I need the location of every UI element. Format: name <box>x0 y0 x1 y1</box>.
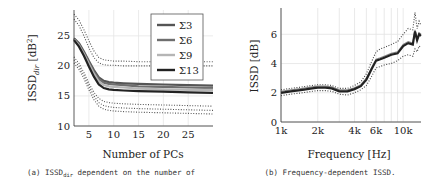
x-tick-label: 20 <box>157 129 170 140</box>
legend-label: Σ13 <box>179 65 199 76</box>
x-tick-label: 25 <box>182 129 195 140</box>
chart-b: 1k2k4k6k10k0246 Frequency [Hz] ISSD [dB]… <box>248 8 421 177</box>
legend-label: Σ6 <box>179 35 192 46</box>
chart-b-x-axis-label: Frequency [Hz] <box>307 148 390 160</box>
y-tick-label: 0 <box>271 117 277 128</box>
chart-a-y-axis-label: ISSDdir [dB2] <box>26 34 41 101</box>
chart-a-legend: Σ3Σ6Σ9Σ13 <box>151 14 203 80</box>
x-tick-label: 10k <box>394 125 414 136</box>
chart-b-caption: (b) Frequency-dependent ISSD. <box>265 168 396 177</box>
y-tick-label: 15 <box>57 90 70 101</box>
x-tick-label: 15 <box>132 129 145 140</box>
y-tick-label: 2 <box>271 87 277 98</box>
chart-a-x-axis-label: Number of PCs <box>102 148 183 160</box>
legend-label: Σ3 <box>179 20 192 31</box>
y-tick-label: 20 <box>57 60 70 71</box>
x-tick-label: 5 <box>86 129 92 140</box>
x-tick-label: 10 <box>107 129 120 140</box>
x-tick-label: 6k <box>370 125 383 136</box>
y-tick-label: 4 <box>271 58 277 69</box>
figure: 51015202510152025 Σ3Σ6Σ9Σ13 Number of PC… <box>0 0 444 180</box>
legend-label: Σ9 <box>179 50 192 61</box>
x-tick-label: 2k <box>312 125 325 136</box>
y-tick-label: 6 <box>271 29 277 40</box>
chart-a: 51015202510152025 Σ3Σ6Σ9Σ13 Number of PC… <box>26 10 213 178</box>
y-tick-label: 25 <box>57 30 70 41</box>
chart-b-axes <box>281 8 421 122</box>
y-tick-label: 10 <box>57 121 70 132</box>
chart-b-dotted-bounds <box>281 12 421 95</box>
x-tick-label: 4k <box>348 125 361 136</box>
chart-b-grid <box>281 8 421 122</box>
chart-a-caption: (a) ISSDdir dependent on the number of <box>27 168 195 178</box>
chart-b-y-axis-label: ISSD [dB] <box>248 40 260 93</box>
series-line <box>281 31 421 92</box>
chart-b-tick-labels: 1k2k4k6k10k0246 <box>271 29 414 136</box>
